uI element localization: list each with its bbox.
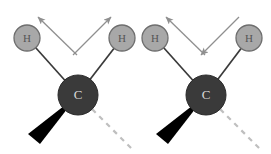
atom-hydrogen-left: [142, 25, 168, 51]
atom-hydrogen-left: [14, 25, 40, 51]
atom-carbon: [186, 75, 226, 115]
figure-canvas: C H H C H H: [0, 0, 271, 154]
molecular-vibration-figure: C H H C H H: [0, 0, 271, 154]
atom-hydrogen-right: [109, 25, 135, 51]
atom-carbon: [58, 75, 98, 115]
atom-hydrogen-right: [236, 25, 262, 51]
